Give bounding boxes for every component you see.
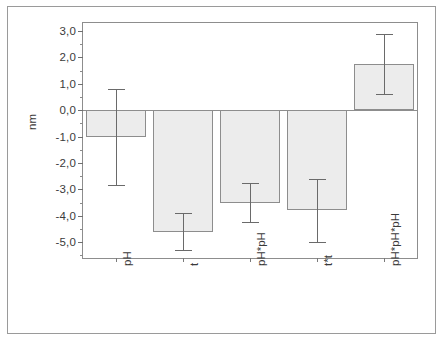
figure-canvas: nm 3,02,01,00,0-1,0-2,0-3,0-4,0-5,0 pHtp… (0, 0, 445, 349)
x-axis-label-pH-pH: pH*pH (255, 232, 267, 266)
error-bar-line (183, 213, 184, 250)
y-axis-tick (78, 84, 83, 85)
y-axis-tick-label: -4,0 (55, 210, 76, 222)
error-bar-line (317, 179, 318, 242)
error-bar-cap-lower (242, 222, 259, 223)
y-axis-tick (78, 242, 83, 243)
x-axis-tick (250, 258, 251, 262)
y-axis-tick (78, 216, 83, 217)
plot-inner: 3,02,01,00,0-1,0-2,0-3,0-4,0-5,0 (83, 23, 417, 258)
y-axis-minor-tick (80, 176, 83, 177)
y-axis-minor-tick (80, 150, 83, 151)
error-bar-cap-upper (242, 183, 259, 184)
y-axis-tick-label: -5,0 (55, 236, 76, 248)
x-axis-label-t: t (188, 263, 200, 266)
y-axis-tick (78, 137, 83, 138)
y-axis-title: nm (26, 114, 38, 130)
x-axis-label-pH-pH-pH: pH*pH*pH (389, 213, 401, 266)
error-bar-cap-lower (108, 185, 125, 186)
error-bar-cap-upper (108, 89, 125, 90)
x-axis-tick (116, 258, 117, 262)
y-axis-tick (78, 189, 83, 190)
error-bar-cap-lower (309, 242, 326, 243)
y-axis-minor-tick (80, 44, 83, 45)
error-bar-line (384, 34, 385, 95)
y-axis-tick-label: -2,0 (55, 157, 76, 169)
y-axis-tick (78, 163, 83, 164)
error-bar-cap-upper (175, 213, 192, 214)
y-axis-tick (78, 110, 83, 111)
y-axis-tick-label: 0,0 (59, 104, 76, 116)
y-axis-tick-label: -1,0 (55, 131, 76, 143)
y-axis-tick-label: 2,0 (59, 51, 76, 63)
y-axis-tick-label: 1,0 (59, 78, 76, 90)
y-axis-minor-tick (80, 229, 83, 230)
y-axis-minor-tick (80, 71, 83, 72)
y-axis-tick-label: -3,0 (55, 183, 76, 195)
x-axis-label-t-t: t*t (322, 255, 334, 266)
plot-area: 3,02,01,00,0-1,0-2,0-3,0-4,0-5,0 (82, 22, 418, 259)
error-bar-cap-upper (376, 34, 393, 35)
error-bar-line (250, 183, 251, 223)
error-bar-cap-upper (309, 179, 326, 180)
y-axis-tick (78, 31, 83, 32)
x-axis-tick (183, 258, 184, 262)
error-bar-cap-lower (175, 250, 192, 251)
x-axis-tick (317, 258, 318, 262)
y-axis-minor-tick (80, 255, 83, 256)
y-axis-tick-label: 3,0 (59, 25, 76, 37)
error-bar-line (116, 89, 117, 185)
x-axis-tick (384, 258, 385, 262)
y-axis-minor-tick (80, 203, 83, 204)
x-axis-label-pH: pH (121, 251, 133, 266)
y-axis-tick (78, 57, 83, 58)
y-axis-minor-tick (80, 123, 83, 124)
error-bar-cap-lower (376, 94, 393, 95)
y-axis-minor-tick (80, 97, 83, 98)
